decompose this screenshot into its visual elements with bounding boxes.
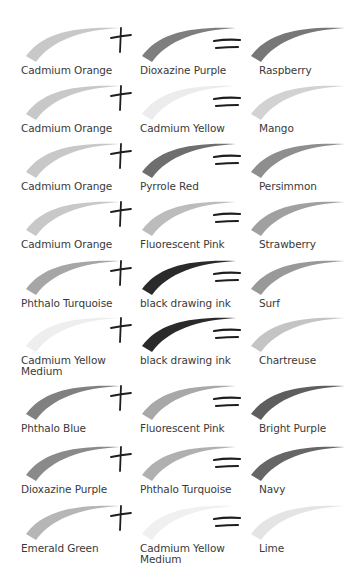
color-a-label: Cadmium Orange [21, 239, 139, 250]
color-b-label: Fluorescent Pink [140, 239, 258, 250]
paint-swatch-a [22, 22, 122, 62]
plus-icon [110, 446, 132, 472]
plus-icon [110, 260, 132, 286]
color-b-label: Dioxazine Purple [140, 65, 258, 76]
color-a-label: Cadmium Orange [21, 65, 139, 76]
color-a-label: Emerald Green [21, 543, 139, 554]
plus-icon [110, 505, 132, 531]
color-b-label: Pyrrole Red [140, 181, 258, 192]
paint-swatch-result [247, 255, 347, 295]
result-color-label: Surf [259, 298, 349, 309]
equals-icon [212, 94, 242, 110]
equals-icon [212, 36, 242, 52]
result-color-label: Bright Purple [259, 423, 349, 434]
plus-icon [110, 201, 132, 227]
result-color-label: Persimmon [259, 181, 349, 192]
plus-icon [110, 317, 132, 343]
plus-icon [110, 85, 132, 111]
color-b-label: Cadmium Yellow [140, 123, 258, 134]
paint-swatch-result [247, 380, 347, 420]
equals-icon [212, 455, 242, 471]
color-b-label: black drawing ink [140, 355, 258, 366]
mix-row: Cadmium Orange Pyrrole Red Persimmon [0, 138, 342, 198]
equals-icon [212, 514, 242, 530]
paint-swatch-a [22, 138, 122, 178]
result-color-label: Navy [259, 484, 349, 495]
color-a-label: Cadmium Yellow Medium [21, 355, 139, 377]
paint-swatch-a [22, 500, 122, 540]
plus-icon [110, 143, 132, 169]
color-b-label: black drawing ink [140, 298, 258, 309]
color-b-label: Fluorescent Pink [140, 423, 258, 434]
mix-row: Cadmium Orange Dioxazine Purple Raspberr… [0, 22, 342, 82]
paint-swatch-a [22, 80, 122, 120]
color-a-label: Cadmium Orange [21, 123, 139, 134]
mix-row: Cadmium Orange Fluorescent Pink Strawber… [0, 196, 342, 256]
color-a-label: Phthalo Blue [21, 423, 139, 434]
color-b-label: Cadmium Yellow Medium [140, 543, 258, 565]
equals-icon [212, 394, 242, 410]
mix-row: Cadmium Yellow Medium black drawing ink … [0, 312, 342, 372]
result-color-label: Chartreuse [259, 355, 349, 366]
plus-icon [110, 385, 132, 411]
paint-swatch-result [247, 500, 347, 540]
paint-swatch-result [247, 138, 347, 178]
result-color-label: Lime [259, 543, 349, 554]
paint-swatch-result [247, 312, 347, 352]
color-a-label: Phthalo Turquoise [21, 298, 139, 309]
color-a-label: Dioxazine Purple [21, 484, 139, 495]
paint-swatch-result [247, 196, 347, 236]
color-a-label: Cadmium Orange [21, 181, 139, 192]
result-color-label: Mango [259, 123, 349, 134]
paint-swatch-a [22, 441, 122, 481]
equals-icon [212, 210, 242, 226]
paint-swatch-result [247, 22, 347, 62]
mix-row: Phthalo Blue Fluorescent Pink Bright Pur… [0, 380, 342, 440]
equals-icon [212, 152, 242, 168]
plus-icon [110, 27, 132, 53]
paint-swatch-a [22, 312, 122, 352]
equals-icon [212, 326, 242, 342]
equals-icon [212, 269, 242, 285]
paint-swatch-a [22, 196, 122, 236]
paint-swatch-a [22, 255, 122, 295]
paint-swatch-a [22, 380, 122, 420]
mix-row: Dioxazine Purple Phthalo Turquoise Navy [0, 441, 342, 501]
color-b-label: Phthalo Turquoise [140, 484, 258, 495]
result-color-label: Raspberry [259, 65, 349, 76]
mix-row: Phthalo Turquoise black drawing ink Surf [0, 255, 342, 315]
paint-swatch-result [247, 441, 347, 481]
result-color-label: Strawberry [259, 239, 349, 250]
mix-row: Emerald Green Cadmium Yellow Medium Lime [0, 500, 342, 560]
paint-swatch-result [247, 80, 347, 120]
mix-row: Cadmium Orange Cadmium Yellow Mango [0, 80, 342, 140]
